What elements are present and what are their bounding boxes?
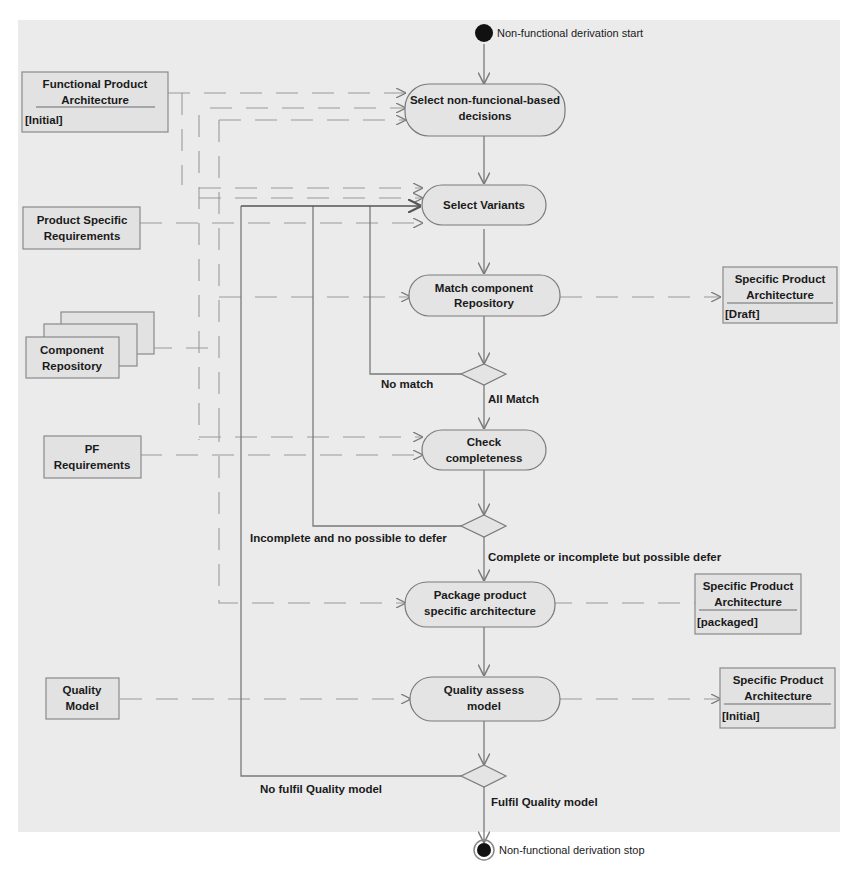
svg-text:Model: Model	[65, 700, 98, 712]
svg-text:specific architecture: specific architecture	[424, 605, 536, 617]
svg-text:decisions: decisions	[458, 110, 511, 122]
svg-text:Specific Product: Specific Product	[733, 674, 824, 686]
svg-text:Functional Product: Functional Product	[43, 78, 148, 90]
svg-text:[packaged]: [packaged]	[697, 616, 758, 628]
object-specific-product-architecture-initial[interactable]: Specific Product Architecture [Initial]	[720, 668, 835, 728]
svg-text:[Initial]: [Initial]	[25, 114, 63, 126]
svg-text:Quality assess: Quality assess	[444, 684, 525, 696]
activity-quality-assess[interactable]: Quality assess model	[410, 677, 560, 721]
guard-no-match: No match	[381, 378, 433, 390]
guard-incomplete: Incomplete and no possible to defer	[250, 532, 447, 544]
svg-text:Architecture: Architecture	[61, 94, 129, 106]
start-node: Non-functional derivation start	[475, 24, 643, 42]
object-component-repository[interactable]: Component Repository	[26, 312, 154, 378]
svg-text:Architecture: Architecture	[746, 289, 814, 301]
svg-text:Requirements: Requirements	[54, 459, 131, 471]
svg-text:Repository: Repository	[454, 297, 515, 309]
svg-text:[Initial]: [Initial]	[722, 710, 760, 722]
activity-match-component[interactable]: Match component Repository	[409, 275, 560, 316]
svg-text:Specific Product: Specific Product	[735, 273, 826, 285]
object-specific-product-architecture-packaged[interactable]: Specific Product Architecture [packaged]	[695, 574, 801, 634]
final-node: Non-functional derivation stop	[474, 840, 645, 860]
activity-check-completeness[interactable]: Check completeness	[422, 430, 546, 470]
activity-select-variants[interactable]: Select Variants	[422, 185, 546, 225]
svg-text:Product Specific: Product Specific	[37, 214, 128, 226]
svg-text:Architecture: Architecture	[744, 690, 812, 702]
activity-package-product[interactable]: Package product specific architecture	[405, 582, 555, 627]
guard-fulfil: Fulfil Quality model	[491, 796, 598, 808]
start-label: Non-functional derivation start	[497, 27, 643, 39]
svg-text:PF: PF	[85, 443, 100, 455]
svg-text:Check: Check	[467, 436, 502, 448]
activity-select-nonfunctional[interactable]: Select non-funcional-based decisions	[405, 84, 565, 136]
svg-text:Match component: Match component	[435, 282, 534, 294]
svg-text:Specific Product: Specific Product	[703, 580, 794, 592]
svg-text:[Draft]: [Draft]	[725, 308, 760, 320]
svg-text:Component: Component	[40, 344, 104, 356]
object-pf-requirements[interactable]: PF Requirements	[44, 436, 141, 478]
svg-text:Quality: Quality	[63, 684, 103, 696]
decision-quality	[461, 765, 506, 787]
svg-text:Select Variants: Select Variants	[443, 199, 525, 211]
svg-text:Requirements: Requirements	[44, 230, 121, 242]
object-product-specific-requirements[interactable]: Product Specific Requirements	[23, 207, 140, 249]
svg-text:Select non-funcional-based: Select non-funcional-based	[410, 94, 560, 106]
object-functional-product-architecture[interactable]: Functional Product Architecture [Initial…	[22, 72, 168, 132]
stop-label: Non-functional derivation stop	[499, 844, 645, 856]
svg-text:completeness: completeness	[446, 452, 523, 464]
guard-all-match: All Match	[488, 393, 539, 405]
svg-text:Architecture: Architecture	[714, 596, 782, 608]
activity-diagram: Non-functional derivation start Select n…	[0, 0, 860, 882]
decision-match	[461, 364, 506, 385]
object-specific-product-architecture-draft[interactable]: Specific Product Architecture [Draft]	[723, 267, 837, 323]
svg-text:model: model	[467, 700, 501, 712]
guard-no-fulfil: No fulfil Quality model	[260, 783, 382, 795]
decision-complete	[461, 515, 506, 537]
svg-text:Repository: Repository	[42, 360, 103, 372]
svg-text:Package product: Package product	[434, 589, 527, 601]
object-quality-model[interactable]: Quality Model	[46, 678, 119, 719]
guard-complete: Complete or incomplete but possible defe…	[488, 551, 722, 563]
